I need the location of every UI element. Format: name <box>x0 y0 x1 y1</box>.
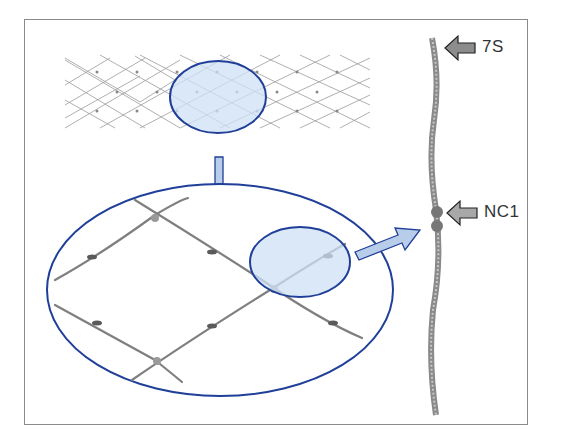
pointer-arrow-icon <box>447 201 477 225</box>
label-7s: 7S <box>482 37 504 57</box>
label-nc1: NC1 <box>484 202 520 222</box>
lattice-zoom-circle <box>170 61 266 133</box>
diagram-canvas <box>0 0 563 441</box>
fiber-zoom-circle <box>250 227 350 297</box>
zoomed-fiber-view <box>47 184 393 396</box>
single-fiber <box>431 38 443 415</box>
pointer-arrow-icon <box>445 36 475 60</box>
